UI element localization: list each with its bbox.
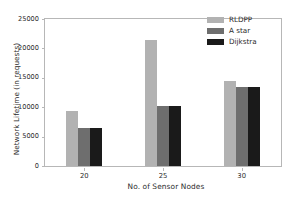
bar-a-star-25 [157,106,169,166]
legend-item: Dijkstra [207,37,279,47]
bar-chart-figure: Network Lifetime (in requests) 050001000… [0,0,292,199]
bar-dijkstra-20 [90,128,102,167]
y-axis-tick-mark [42,19,45,20]
y-axis-tick-label: 20000 [5,45,39,52]
y-axis-tick-mark [42,107,45,108]
legend-label: RLDPP [229,16,252,24]
y-axis-tick-mark [42,78,45,79]
legend-label: Dijkstra [229,38,257,46]
y-axis-tick-mark [42,137,45,138]
y-axis-tick-label: 5000 [5,133,39,140]
bar-a-star-30 [236,87,248,166]
x-axis-tick-mark [163,168,164,171]
y-axis-tick-mark [42,166,45,167]
legend-item: RLDPP [207,15,279,25]
bar-rldpp-30 [224,81,236,166]
chart-legend: RLDPPA starDijkstra [207,15,279,48]
bar-rldpp-25 [145,40,157,166]
bar-a-star-20 [78,128,90,167]
x-axis-tick-label: 25 [143,172,183,180]
bar-dijkstra-25 [169,106,181,166]
legend-swatch-icon [207,39,224,45]
y-axis-tick-label: 25000 [5,16,39,23]
legend-swatch-icon [207,17,224,23]
legend-item: A star [207,26,279,36]
y-axis-tick-label: 10000 [5,104,39,111]
legend-swatch-icon [207,28,224,34]
y-axis-tick-label: 15000 [5,74,39,81]
bar-rldpp-20 [66,111,78,166]
x-axis-tick-mark [84,168,85,171]
legend-label: A star [229,27,250,35]
x-axis-tick-label: 20 [64,172,104,180]
y-axis-tick-mark [42,48,45,49]
x-axis-tick-mark [242,168,243,171]
x-axis-label: No. of Sensor Nodes [44,182,288,191]
y-axis-tick-label: 0 [5,163,39,170]
x-axis-tick-label: 30 [222,172,262,180]
bar-dijkstra-30 [248,87,260,166]
